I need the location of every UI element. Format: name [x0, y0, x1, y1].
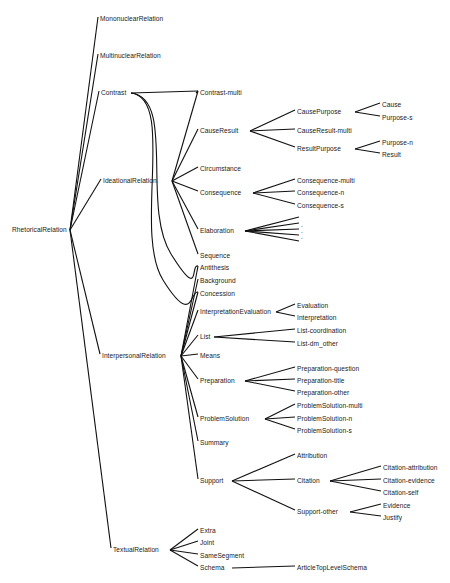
node-problemsolution-n: ProblemSolution-n — [297, 415, 352, 423]
node-means: Means — [200, 352, 220, 360]
node-list: List — [200, 333, 210, 341]
node-multinuclearrelation: MultinuclearRelation — [100, 52, 161, 60]
node-concession: Concession — [200, 290, 235, 298]
curved-edge-contrast-antithesis — [131, 93, 198, 278]
node-elaboration: Elaboration — [200, 227, 234, 235]
node-samesegment: SameSegment — [200, 552, 244, 560]
node-ideationalrelation: IdeationalRelation — [103, 177, 157, 185]
edge-resultpurpose-result — [355, 149, 380, 153]
node-contrast-multi: Contrast-multi — [200, 89, 242, 97]
node-justify: Justify — [383, 514, 402, 522]
node-sequence: Sequence — [200, 252, 230, 260]
node-attribution: Attribution — [297, 452, 327, 460]
node-citation-self: Citation-self — [383, 489, 418, 497]
edge-support-other-justify — [350, 512, 381, 516]
node-consequence-s: Consequence-s — [297, 202, 344, 210]
node-support-other: Support-other — [297, 508, 338, 516]
node-circumstance: Circumstance — [200, 165, 241, 173]
edge-ideationalrelation-consequence — [172, 181, 198, 191]
node-contrast: Contrast — [101, 89, 126, 97]
edge-schema-articletoplevelschema — [232, 566, 295, 568]
node-joint: Joint — [200, 539, 214, 547]
relation-tree-diagram: RhetoricalRelationMononuclearRelationMul… — [0, 0, 450, 583]
node-consequence-n: Consequence-n — [297, 189, 344, 197]
edge-ideationalrelation-elaboration — [172, 181, 198, 229]
node-consequence-multi: Consequence-multi — [297, 177, 355, 185]
edge-list-list-coordination — [214, 329, 295, 337]
edge-support-attribution — [232, 454, 295, 481]
node-causepurpose: CausePurpose — [297, 108, 341, 116]
node-causeresult: CauseResult — [200, 127, 238, 135]
node-cause: Cause — [382, 101, 401, 109]
node-support: Support — [200, 477, 223, 485]
node-background: Background — [200, 277, 236, 285]
edge-causeresult-causepurpose — [250, 110, 295, 131]
node-preparation-other: Preparation-other — [297, 389, 349, 397]
node-preparation: Preparation — [200, 377, 235, 385]
node-list-dm_other: List-dm_other — [297, 340, 338, 348]
node-citation-attribution: Citation-attribution — [383, 464, 438, 472]
edge-problemsolution-problemsolution-s — [265, 419, 295, 429]
edge-rhetoricalrelation-ideationalrelation — [70, 179, 101, 230]
node-purpose-s: Purpose-s — [382, 114, 413, 122]
edge-causepurpose-purpose-s — [355, 112, 380, 116]
edge-consequence-consequence-s — [253, 193, 295, 204]
node-causeresult-multi: CauseResult-multi — [297, 127, 352, 135]
node-evaluation: Evaluation — [297, 302, 328, 310]
node-result: Result — [382, 151, 401, 159]
node-preparation-question: Preparation-question — [297, 365, 359, 373]
edge-support-support-other — [232, 481, 295, 510]
node-resultpurpose: ResultPurpose — [297, 145, 341, 153]
edge-interpretationevaluation-evaluation — [276, 304, 295, 312]
node-antithesis: Antithesis — [200, 264, 229, 272]
node-purpose-n: Purpose-n — [382, 139, 413, 147]
edge-causeresult-resultpurpose — [250, 131, 295, 147]
edge-rhetoricalrelation-interpersonalrelation — [70, 230, 100, 354]
edge-interpersonalrelation-means — [181, 354, 198, 356]
edge-textualrelation-extra — [170, 529, 198, 550]
edge-support-citation — [232, 479, 295, 481]
node-interpretationevaluation: InterpretationEvaluation — [200, 308, 271, 316]
edge-resultpurpose-purpose-n — [355, 141, 380, 149]
edge-interpersonalrelation-concession — [181, 292, 198, 356]
edge-interpersonalrelation-antithesis — [181, 266, 198, 356]
node-problemsolution-s: ProblemSolution-s — [297, 427, 352, 435]
node-mononuclearrelation: MononuclearRelation — [100, 15, 163, 23]
edge-interpersonalrelation-problemsolution — [181, 356, 198, 417]
node-citation: Citation — [297, 477, 320, 485]
edge-rhetoricalrelation-multinuclearrelation — [70, 54, 98, 230]
edge-rhetoricalrelation-contrast — [70, 91, 99, 230]
edge-ideationalrelation-sequence — [172, 181, 198, 254]
node-interpersonalrelation: InterpersonalRelation — [102, 352, 166, 360]
node-evidence: Evidence — [383, 502, 411, 510]
edge-citation-citation-self — [330, 481, 381, 491]
edge-textualrelation-joint — [170, 541, 198, 550]
node-schema: Schema — [200, 564, 225, 572]
node-extra: Extra — [200, 527, 216, 535]
node-consequence: Consequence — [200, 189, 241, 197]
edge-rhetoricalrelation-textualrelation — [70, 230, 111, 548]
edge-interpersonalrelation-support — [181, 356, 198, 479]
edge-causepurpose-cause — [355, 103, 380, 112]
node-citation-evidence: Citation-evidence — [383, 477, 435, 485]
node-rhetoricalrelation: RhetoricalRelation — [12, 226, 67, 234]
node-elab-4: . — [301, 233, 303, 241]
edge-interpretationevaluation-interpretation — [276, 312, 295, 316]
node-problemsolution: ProblemSolution — [200, 415, 249, 423]
node-textualrelation: TextualRelation — [113, 546, 159, 554]
node-articletoplevelschema: ArticleTopLevelSchema — [297, 564, 367, 572]
edge-rhetoricalrelation-mononuclearrelation — [70, 17, 98, 230]
node-list-coordination: List-coordination — [297, 327, 346, 335]
edge-preparation-preparation-other — [245, 381, 295, 391]
edge-support-other-evidence — [350, 504, 381, 512]
node-interpretation: Interpretation — [297, 314, 337, 322]
node-summary: Summary — [200, 439, 229, 447]
node-problemsolution-multi: ProblemSolution-multi — [297, 402, 363, 410]
edge-contrast-contrast-multi — [131, 91, 198, 93]
edge-list-list-dm_other — [214, 337, 295, 342]
edge-interpersonalrelation-summary — [181, 356, 198, 441]
node-preparation-title: Preparation-title — [297, 377, 344, 385]
edge-causeresult-causeresult-multi — [250, 129, 295, 131]
